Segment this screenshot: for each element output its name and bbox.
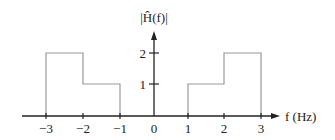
x-tick-label: −2 [76, 121, 90, 136]
x-tick-label: −1 [113, 121, 127, 136]
left-step-curve [46, 53, 120, 116]
x-tick-label: 1 [185, 121, 192, 136]
y-tick-label: 1 [140, 77, 147, 92]
y-axis-label: |Ĥ(f)| [140, 10, 168, 25]
right-step-curve [188, 53, 261, 116]
x-tick-label: 3 [258, 121, 265, 136]
x-tick-label: 2 [221, 121, 228, 136]
x-axis-label: f (Hz) [285, 109, 316, 124]
x-axis-arrow-icon [271, 113, 280, 119]
y-tick-label: 2 [140, 46, 147, 61]
x-tick-label: −3 [39, 121, 53, 136]
x-tick-label: 0 [151, 121, 158, 136]
magnitude-spectrum-chart: −3 −2 −1 0 1 2 3 1 2 |Ĥ(f)| f (Hz) [0, 0, 335, 140]
y-axis-arrow-icon [151, 31, 157, 40]
